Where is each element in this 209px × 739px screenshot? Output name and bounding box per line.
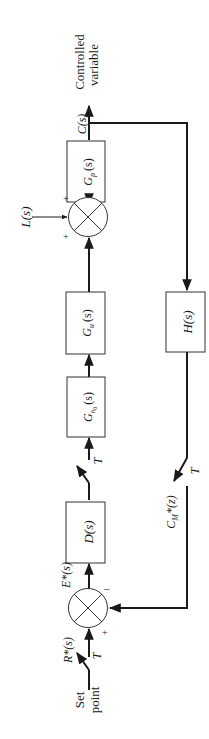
block-gp: Gp(s) — [67, 141, 105, 202]
sampler-feedback — [110, 352, 187, 608]
feedback-sampled-rest: *(z) — [164, 495, 178, 514]
sampler-reference-period: T — [90, 651, 104, 659]
plus-sign-top: + — [63, 193, 69, 204]
sampler-feedback-period: T — [188, 466, 202, 474]
gu-subscript: u — [87, 324, 96, 328]
block-d: D(s) — [66, 502, 105, 563]
block-gh0: Gh0(s) — [67, 377, 105, 437]
gp-subscript: p — [88, 173, 97, 178]
disturbance-label: L(s) — [18, 207, 33, 229]
plus-sign-reference: + — [102, 627, 108, 638]
setpoint-label-line1: Set — [72, 691, 87, 708]
summing-junction-error — [69, 589, 108, 628]
setpoint-label-line2: point — [87, 686, 102, 713]
d-label: D(s) — [81, 520, 96, 544]
block-gu: Gu(s) — [66, 292, 105, 354]
plus-sign-bottom: + — [63, 231, 69, 242]
block-h: H(s) — [166, 292, 205, 352]
reference-label: R*(s) — [61, 637, 75, 664]
summing-junction-load — [69, 198, 108, 237]
feedback-sampled-label: CM*(z) — [164, 495, 180, 528]
sampler-forward-period: T — [91, 456, 105, 464]
gp-arg: (s) — [81, 158, 95, 171]
gp-label: G — [81, 177, 95, 186]
block-diagram: Gp(s) + + L(s) Gu(s) Gh0(s) T — [0, 0, 209, 739]
h-label: H(s) — [180, 310, 195, 334]
output-name-line2: variable — [86, 44, 101, 86]
error-label: E*(s) — [59, 562, 73, 589]
sampler-reference — [77, 629, 89, 690]
output-name-line1: Controlled — [72, 34, 87, 90]
output-symbol-label: C(s) — [75, 114, 89, 135]
sampler-forward — [77, 438, 89, 500]
gh0-arg: (s) — [81, 392, 95, 405]
gh0-subsubscript: 0 — [92, 407, 98, 410]
gu-label: G — [80, 328, 94, 337]
gh0-label: G — [81, 413, 95, 422]
gu-arg: (s) — [80, 309, 94, 322]
minus-sign: – — [103, 582, 110, 594]
